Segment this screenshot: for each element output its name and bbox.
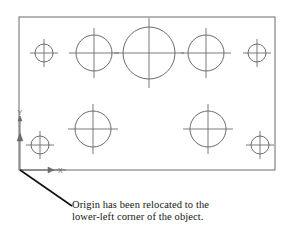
hole-bot-2 xyxy=(68,104,118,154)
caption-line-1: Origin has been relocated to the xyxy=(72,199,282,211)
ucs-origin-triangle-marker xyxy=(17,133,23,141)
hole-bot-1 xyxy=(26,131,54,159)
hole-top-3 xyxy=(114,18,184,88)
drawing-canvas: YX Origin has been relocated to the lowe… xyxy=(0,0,291,247)
ucs-x-label: X xyxy=(58,167,63,174)
ucs-origin-icon: YX xyxy=(17,109,66,174)
hole-top-4 xyxy=(181,28,231,78)
hole-bot-4 xyxy=(246,131,274,159)
hole-top-5 xyxy=(243,39,271,67)
hole-bot-3 xyxy=(183,104,233,154)
caption-line-2: lower-left corner of the object. xyxy=(72,211,282,223)
object-outline-rectangle xyxy=(19,17,275,170)
leader-line xyxy=(20,170,72,206)
hole-top-1 xyxy=(30,39,58,67)
ucs-y-label: Y xyxy=(18,109,23,116)
hole-top-2 xyxy=(69,28,119,78)
origin-caption: Origin has been relocated to the lower-l… xyxy=(72,199,282,223)
ucs-x-arrowhead xyxy=(48,167,54,173)
